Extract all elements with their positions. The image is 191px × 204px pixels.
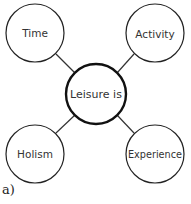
node-time-label: Time: [21, 27, 48, 39]
node-holism: Holism: [6, 125, 64, 183]
connector-time: [56, 54, 75, 73]
connector-holism: [56, 115, 75, 133]
node-holism-label: Holism: [17, 148, 53, 160]
node-center-label: Leisure is: [70, 88, 122, 101]
mind-map: Time Activity Holism Experience Leisure …: [0, 0, 191, 204]
node-activity-label: Activity: [135, 28, 174, 40]
node-time: Time: [6, 4, 64, 62]
node-experience: Experience: [126, 125, 184, 183]
connector-experience: [117, 115, 134, 133]
node-center: Leisure is: [66, 64, 126, 124]
node-activity: Activity: [126, 4, 184, 62]
connector-activity: [117, 54, 134, 73]
figure-caption: a): [2, 182, 15, 197]
node-experience-label: Experience: [128, 148, 182, 160]
